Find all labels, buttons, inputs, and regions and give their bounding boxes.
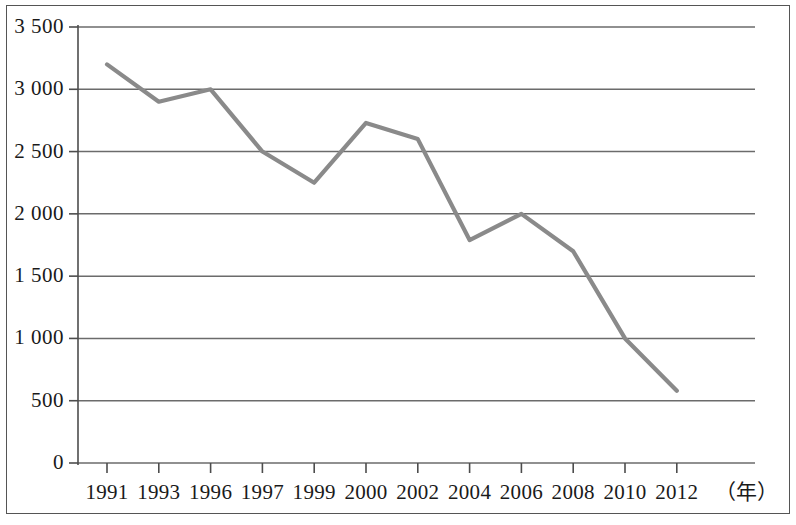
y-axis-tick-label: 2 000 [14,203,64,224]
y-axis-tick-label: 2 500 [14,141,64,162]
chart-figure: 05001 0001 5002 0002 5003 0003 500 19911… [0,0,796,525]
x-axis-tick-label: 2012 [647,482,707,503]
y-axis-tick-label: 0 [53,452,64,473]
y-axis-tick-label: 3 000 [14,78,64,99]
y-axis-ticks-group [69,27,78,463]
data-series-line [107,64,677,390]
x-axis-unit-label: （年） [715,482,778,503]
y-axis-tick-label: 1 000 [14,327,64,348]
gridlines-group [78,27,755,463]
x-axis-ticks-group [107,463,677,473]
y-axis-tick-label: 1 500 [14,265,64,286]
line-chart-plot [0,0,796,525]
y-axis-tick-label: 500 [31,390,64,411]
y-axis-tick-label: 3 500 [14,16,64,37]
